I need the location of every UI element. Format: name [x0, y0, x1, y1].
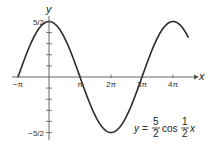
- x-tick-label: −π: [13, 80, 24, 89]
- eq-arg-den: 2: [182, 128, 188, 139]
- eq-var: x: [189, 123, 196, 134]
- eq-coef-den: 2: [153, 128, 159, 139]
- x-tick-label: 4π: [168, 80, 178, 89]
- eq-func: cos: [162, 123, 178, 134]
- x-tick-label: π: [77, 80, 83, 89]
- cosine-chart: 5/2−5/2−ππ2π3π4π x y y = 5 2 cos 1 2 x: [0, 0, 214, 150]
- y-tick-label: 5/2: [33, 18, 45, 27]
- x-tick-label: 2π: [106, 80, 116, 89]
- axes: [12, 16, 199, 140]
- x-tick-label: 3π: [137, 80, 147, 89]
- eq-arg-num: 1: [182, 116, 188, 127]
- eq-lhs: y: [133, 123, 140, 134]
- y-axis-label: y: [45, 3, 53, 15]
- eq-coef-num: 5: [153, 116, 159, 127]
- equation-label: y = 5 2 cos 1 2 x: [133, 116, 196, 139]
- x-axis-label: x: [198, 70, 205, 82]
- eq-equals: =: [142, 123, 148, 134]
- y-tick-label: −5/2: [28, 129, 44, 138]
